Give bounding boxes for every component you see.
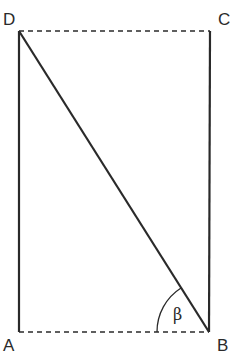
edge-cb (209, 31, 210, 332)
vertex-label-d: D (3, 10, 15, 29)
rectangle-diagram: D C A B β (0, 0, 240, 357)
vertex-label-c: C (218, 10, 230, 29)
vertex-label-a: A (3, 336, 15, 355)
vertex-label-b: B (217, 336, 228, 355)
edge-db-diagonal (19, 31, 209, 332)
angle-label-beta: β (173, 305, 182, 324)
